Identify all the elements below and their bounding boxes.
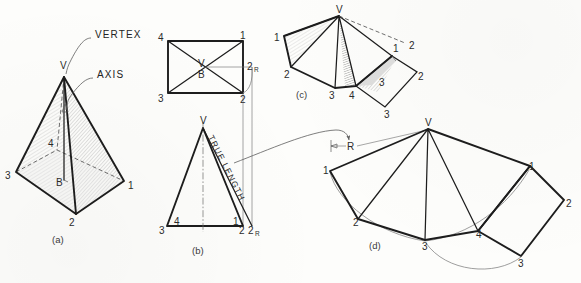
d-base-square: [478, 166, 564, 256]
caption-c: (c): [296, 89, 307, 100]
label-c-1-left: 1: [274, 32, 280, 43]
label-d-1-right: 1: [529, 161, 535, 172]
label-c-1-right: 1: [393, 43, 399, 54]
axis-annotation: AXIS: [97, 69, 124, 80]
label-d-3: 3: [422, 241, 428, 252]
label-d-1-left: 1: [323, 165, 329, 176]
vertex-leader: [66, 38, 91, 74]
label-b-top-1: 1: [240, 30, 246, 41]
panel-c-partial-development: V 1 2 3 4 1 2 3 2 3 (c): [274, 4, 424, 120]
label-d-R: R: [347, 141, 355, 152]
label-c-2-right: 2: [409, 40, 415, 51]
label-c-4: 4: [349, 90, 355, 101]
c-construction-dashed: [339, 16, 405, 43]
label-a-4: 4: [48, 138, 54, 149]
pyramid-development-figure: VERTEX AXIS V 3 2 1 4 B (a) 4 1 3 2 V: [0, 0, 581, 283]
panel-a-pyramid: VERTEX AXIS V 3 2 1 4 B (a): [5, 29, 141, 245]
label-a-B: B: [56, 177, 63, 188]
label-b-front-V: V: [200, 115, 207, 126]
label-a-1: 1: [128, 180, 134, 191]
label-b-front-3: 3: [159, 225, 165, 236]
caption-a: (a): [52, 234, 64, 245]
d-fold-lines: [358, 129, 478, 240]
label-c-V: V: [336, 4, 343, 15]
label-a-2: 2: [69, 217, 75, 228]
label-c-2-left: 2: [284, 69, 290, 80]
label-c-3: 3: [329, 90, 335, 101]
label-b-top-B: B: [198, 69, 205, 80]
caption-b: (b): [192, 245, 204, 256]
d-development-outline: [330, 129, 530, 240]
label-d-3-bottom: 3: [518, 258, 524, 269]
label-c-2-flap: 2: [418, 71, 424, 82]
label-b-front-2r-subscript: R: [255, 230, 260, 237]
label-b-top-4: 4: [158, 32, 164, 43]
label-a-V: V: [60, 60, 67, 71]
label-b-top-2r-subscript: R: [254, 66, 259, 73]
label-b-front-4: 4: [174, 216, 180, 227]
label-b-top-2r: 2: [247, 61, 253, 72]
label-b-top-2: 2: [240, 94, 246, 105]
label-d-V: V: [425, 117, 432, 128]
label-d-2-left: 2: [353, 217, 359, 228]
caption-d: (d): [369, 240, 381, 251]
label-a-3: 3: [5, 170, 11, 181]
label-b-top-V: V: [198, 58, 205, 69]
label-b-front-2r: 2: [248, 225, 254, 236]
label-d-2-right: 2: [566, 198, 572, 209]
figure-page: VERTEX AXIS V 3 2 1 4 B (a) 4 1 3 2 V: [0, 0, 581, 283]
panel-d-full-development: R V 1 2 3 4 1 2 3 (d): [323, 117, 572, 269]
true-length-annotation: TRUE LENGTH: [206, 133, 247, 202]
label-c-3-mid: 3: [379, 77, 385, 88]
c-face-v12: [284, 16, 339, 67]
label-b-top-3: 3: [158, 93, 164, 104]
label-c-3-bottom: 3: [384, 109, 390, 120]
label-b-front-2: 2: [239, 225, 245, 236]
vertex-annotation: VERTEX: [95, 29, 141, 40]
panel-b-orthographic: 4 1 3 2 V B 2 R V 3 4 1 2 2 R TRUE LENGT…: [158, 30, 260, 256]
d-arc-left: [330, 172, 425, 241]
label-d-4: 4: [476, 229, 482, 240]
